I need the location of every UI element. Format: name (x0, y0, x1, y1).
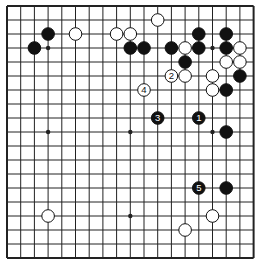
white-stone (110, 28, 123, 41)
white-stone (124, 28, 137, 41)
black-stone (220, 28, 233, 41)
black-stone-move-3: 3 (151, 112, 164, 125)
move-number: 2 (169, 70, 174, 81)
white-stone (179, 42, 192, 55)
white-stone (206, 210, 219, 223)
black-stone (179, 56, 192, 69)
go-board[interactable]: 12345 (0, 0, 255, 265)
star-point (46, 46, 50, 50)
black-stone (124, 42, 137, 55)
white-stone (234, 56, 247, 69)
star-point (210, 130, 214, 134)
black-stone (165, 42, 178, 55)
black-stone (42, 28, 55, 41)
black-stone (220, 182, 233, 195)
move-number: 3 (155, 112, 160, 123)
move-number: 4 (141, 84, 146, 95)
star-point (46, 130, 50, 134)
white-stone-move-2: 2 (165, 70, 178, 83)
black-stone-move-5: 5 (193, 182, 206, 195)
star-point (210, 46, 214, 50)
white-stone (206, 84, 219, 97)
star-point (128, 214, 132, 218)
black-stone-move-1: 1 (193, 112, 206, 125)
star-point (128, 130, 132, 134)
black-stone (28, 42, 41, 55)
black-stone (193, 42, 206, 55)
white-stone (179, 224, 192, 237)
white-stone (42, 210, 55, 223)
black-stone (138, 42, 151, 55)
white-stone (69, 28, 82, 41)
white-stone (220, 56, 233, 69)
move-number: 1 (196, 112, 201, 123)
black-stone (220, 84, 233, 97)
white-stone (206, 70, 219, 83)
black-stone (220, 42, 233, 55)
white-stone (234, 42, 247, 55)
black-stone (193, 28, 206, 41)
black-stone (220, 126, 233, 139)
white-stone (151, 14, 164, 27)
white-stone-move-4: 4 (138, 84, 151, 97)
white-stone (179, 70, 192, 83)
move-number: 5 (196, 182, 201, 193)
black-stone (234, 70, 247, 83)
